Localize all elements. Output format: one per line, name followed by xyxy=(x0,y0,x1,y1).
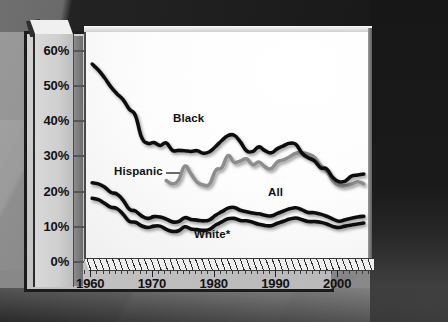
y-axis-tick xyxy=(74,191,84,193)
x-axis-minor-tick xyxy=(146,270,147,274)
x-axis-minor-tick xyxy=(282,270,283,274)
x-axis-minor-tick xyxy=(207,270,208,274)
series-line-all xyxy=(92,183,364,222)
x-axis-tick-label: 2000 xyxy=(323,276,351,291)
plot-panel-right-edge xyxy=(368,28,372,263)
y-axis-tick-label: 20% xyxy=(32,183,73,198)
x-axis-minor-tick xyxy=(294,270,295,274)
x-axis xyxy=(84,258,374,276)
series-label-leader-line xyxy=(166,172,180,174)
y-axis-tick-label: 60% xyxy=(32,42,73,57)
x-axis-tick-label: 1960 xyxy=(76,276,104,291)
background-dark-right-band xyxy=(370,0,448,322)
y-axis-tick xyxy=(74,261,84,263)
x-axis-minor-tick xyxy=(245,270,246,274)
x-axis-minor-tick xyxy=(312,270,313,274)
y-axis-tick xyxy=(74,155,84,157)
x-axis-minor-tick xyxy=(121,270,122,274)
series-label-black: Black xyxy=(173,112,204,124)
x-axis-minor-tick xyxy=(238,270,239,274)
x-axis-minor-tick xyxy=(133,270,134,274)
x-axis-hatch-pattern xyxy=(84,259,374,270)
x-axis-minor-tick xyxy=(251,270,252,274)
x-axis-minor-tick xyxy=(319,270,320,274)
y-axis-tick-label: 30% xyxy=(32,148,73,163)
x-axis-minor-tick xyxy=(189,270,190,274)
x-axis-minor-tick xyxy=(356,270,357,274)
x-axis-minor-tick xyxy=(331,270,332,274)
x-axis-minor-tick xyxy=(115,270,116,274)
y-axis-tick-label: 40% xyxy=(32,113,73,128)
x-axis-minor-tick xyxy=(170,270,171,274)
x-axis-minor-tick xyxy=(158,270,159,274)
series-lines xyxy=(86,32,368,261)
x-axis-minor-tick xyxy=(349,270,350,274)
x-axis-minor-tick xyxy=(220,270,221,274)
x-axis-minor-tick xyxy=(232,270,233,274)
x-axis-minor-tick xyxy=(263,270,264,274)
x-axis-minor-tick xyxy=(96,270,97,274)
x-axis-minor-tick xyxy=(288,270,289,274)
x-axis-tick-labels: 19601970198019902000 xyxy=(60,276,380,296)
x-axis-minor-tick xyxy=(343,270,344,274)
y-axis-tick xyxy=(74,120,84,122)
x-axis-minor-tick xyxy=(164,270,165,274)
x-axis-minor-tick xyxy=(269,270,270,274)
y-axis-tick-label: 10% xyxy=(32,218,73,233)
x-axis-minor-tick xyxy=(109,270,110,274)
x-axis-minor-tick xyxy=(257,270,258,274)
x-axis-minor-tick xyxy=(103,270,104,274)
x-axis-minor-tick xyxy=(362,270,363,274)
x-axis-tick-label: 1980 xyxy=(200,276,228,291)
plot-area xyxy=(84,32,368,261)
y-axis-tick-label: 0% xyxy=(32,254,73,269)
x-axis-minor-tick xyxy=(84,270,85,274)
y-axis-column: 0%10%20%30%40%50%60% xyxy=(33,34,74,287)
x-axis-tick-label: 1990 xyxy=(261,276,289,291)
x-axis-minor-tick xyxy=(325,270,326,274)
y-axis-tick xyxy=(74,85,84,87)
series-label-white: White* xyxy=(194,228,230,240)
series-label-all: All xyxy=(268,186,283,198)
x-axis-minor-tick xyxy=(177,270,178,274)
x-axis-tick-label: 1970 xyxy=(138,276,166,291)
x-axis-minor-tick xyxy=(300,270,301,274)
x-axis-minor-tick xyxy=(201,270,202,274)
y-axis-column-side xyxy=(74,36,83,286)
chart-figure: 0%10%20%30%40%50%60% 1960197019801990200… xyxy=(0,0,448,322)
x-axis-minor-tick xyxy=(127,270,128,274)
x-axis-minor-tick xyxy=(195,270,196,274)
x-axis-minor-tick xyxy=(183,270,184,274)
series-label-hispanic: Hispanic xyxy=(114,165,163,177)
y-axis-tick xyxy=(74,226,84,228)
y-axis-tick-label: 50% xyxy=(32,77,73,92)
x-axis-minor-tick xyxy=(226,270,227,274)
x-axis-minor-tick xyxy=(140,270,141,274)
y-axis-tick xyxy=(74,50,84,52)
x-axis-minor-tick xyxy=(368,270,369,274)
x-axis-minor-tick xyxy=(306,270,307,274)
